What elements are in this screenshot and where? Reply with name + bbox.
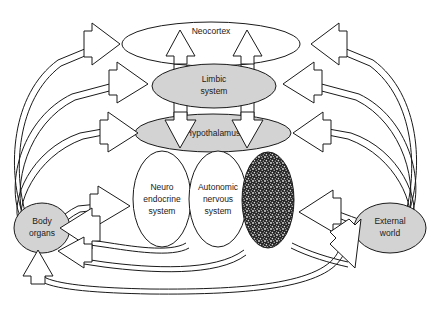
- neuro-endocrine-label-line2: endocrine: [143, 194, 181, 204]
- autonomic-nervous-label-line3: system: [205, 206, 232, 216]
- neocortex-label: Neocortex: [192, 26, 231, 36]
- stem-systems-to-body-upper-inner: [90, 245, 189, 253]
- external-world-label-line2: world: [379, 228, 401, 238]
- autonomic-nervous-label-line1: Autonomic: [198, 182, 239, 192]
- arrowhead-body-to-neocortex[interactable]: [84, 23, 120, 65]
- dark-speckled-ellipse[interactable]: [242, 152, 294, 248]
- body-organs-label-line1: Body: [32, 216, 52, 226]
- node-neuro-endocrine-system[interactable]: Neuro endocrine system: [133, 151, 191, 247]
- arrowhead-body-to-hypothalamus[interactable]: [100, 112, 138, 152]
- neuro-endocrine-label-line3: system: [149, 206, 176, 216]
- autonomic-nervous-label-line2: nervous: [203, 194, 233, 204]
- arrowhead-dark-ellipse-to-world[interactable]: [330, 219, 361, 268]
- node-neocortex[interactable]: Neocortex: [122, 22, 300, 66]
- node-autonomic-nervous-system[interactable]: Autonomic nervous system: [189, 151, 247, 247]
- neuro-endocrine-label-line1: Neuro: [150, 182, 173, 192]
- stem-world-to-neocortex-outer: [339, 46, 417, 212]
- diagram-canvas: Neocortex Limbic system Hypothalamus Neu…: [0, 0, 431, 311]
- node-hypothalamus[interactable]: Hypothalamus: [135, 114, 291, 152]
- external-world-label-line1: External: [374, 216, 405, 226]
- node-limbic-system[interactable]: Limbic system: [152, 64, 276, 108]
- limbic-system-label-line2: system: [201, 86, 228, 96]
- hypothalamus-label: Hypothalamus: [186, 128, 240, 138]
- arrowhead-world-to-limbic[interactable]: [283, 62, 322, 103]
- stem-systems-to-body-lower-outer: [84, 250, 244, 267]
- systems-diagram: Neocortex Limbic system Hypothalamus Neu…: [0, 0, 431, 311]
- node-external-world[interactable]: External world: [354, 203, 426, 253]
- arrowhead-world-to-dark-ellipse[interactable]: [299, 190, 341, 232]
- arrowhead-body-to-limbic[interactable]: [109, 62, 148, 103]
- arrowhead-world-to-neocortex[interactable]: [311, 23, 347, 65]
- node-dark-unlabeled-ellipse[interactable]: [242, 152, 294, 248]
- body-organs-label-line2: organs: [29, 228, 55, 238]
- stem-body-to-neocortex-outer: [14, 46, 92, 212]
- arrowhead-world-to-hypothalamus[interactable]: [293, 112, 331, 152]
- stem-systems-to-body-lower-inner: [84, 255, 246, 272]
- limbic-system-label-line1: Limbic: [202, 74, 227, 84]
